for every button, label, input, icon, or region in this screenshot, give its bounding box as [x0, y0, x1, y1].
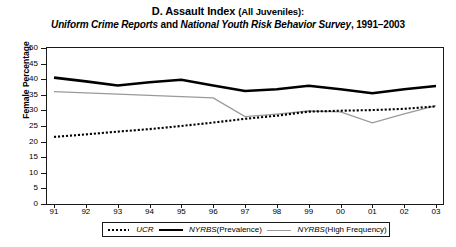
chart-title-source-ucr: Uniform Crime Reports — [51, 19, 158, 30]
y-axis-tick-label: 5 — [14, 184, 38, 192]
chart-title-year-range: , 1991–2003 — [351, 19, 405, 30]
legend-gray-line-icon — [266, 226, 292, 234]
y-axis-tick-label: 0 — [14, 200, 38, 208]
x-axis-tick-label: 02 — [393, 208, 415, 216]
series-line-nyrbs-high-frequency — [54, 92, 436, 123]
series-line-nyrbs-prevalence — [54, 78, 436, 94]
x-axis-tick-label: 00 — [330, 208, 352, 216]
chart-legend: UCRNYRBS (Prevalence)NYRBS (High Frequen… — [102, 222, 390, 237]
legend-item[interactable]: NYRBS (High Frequency) — [265, 225, 387, 234]
legend-thick-line-icon — [158, 226, 184, 234]
chart-title-subject: (All Juveniles): — [238, 6, 304, 17]
x-axis-tick-label: 95 — [170, 208, 192, 216]
y-axis-tick-label: 35 — [14, 91, 38, 99]
y-axis-tick-label: 10 — [14, 169, 38, 177]
y-axis-tick-label: 50 — [14, 44, 38, 52]
x-axis-tick-label: 96 — [202, 208, 224, 216]
legend-item-qualifier: (Prevalence) — [217, 225, 262, 234]
x-axis-tick-label: 03 — [425, 208, 447, 216]
legend-item-label: UCR — [136, 225, 153, 234]
legend-dotted-line-icon — [105, 226, 131, 234]
x-axis-tick-label: 92 — [75, 208, 97, 216]
x-axis-tick-label: 99 — [298, 208, 320, 216]
legend-item-label: NYRBS — [297, 225, 325, 234]
x-axis-tick-label: 01 — [361, 208, 383, 216]
legend-item[interactable]: NYRBS (Prevalence) — [157, 225, 263, 234]
plot-area — [46, 47, 444, 205]
x-axis-tick-label: 93 — [107, 208, 129, 216]
x-axis-tick-label: 91 — [43, 208, 65, 216]
x-axis-tick-label: 94 — [139, 208, 161, 216]
y-axis-tick-label: 40 — [14, 75, 38, 83]
y-axis-tick-label: 30 — [14, 106, 38, 114]
chart-title-line-2: Uniform Crime Reports and National Youth… — [0, 19, 456, 32]
plot-svg — [47, 48, 443, 204]
chart-title-source-nyrbs: National Youth Risk Behavior Survey — [181, 19, 351, 30]
chart-title-lead: D. Assault Index — [152, 5, 236, 17]
chart-title: D. Assault Index (All Juveniles): Unifor… — [0, 4, 456, 32]
x-axis-tick-label: 97 — [234, 208, 256, 216]
legend-item-qualifier: (High Frequency) — [325, 225, 387, 234]
legend-item[interactable]: UCR — [104, 225, 154, 234]
chart-figure: D. Assault Index (All Juveniles): Unifor… — [0, 0, 456, 247]
y-axis-tick-label: 15 — [14, 153, 38, 161]
y-axis-tick-label: 45 — [14, 60, 38, 68]
legend-item-label: NYRBS — [189, 225, 217, 234]
chart-title-conjunction: and — [158, 19, 181, 30]
x-axis-tick-label: 98 — [266, 208, 288, 216]
chart-title-line-1: D. Assault Index (All Juveniles): — [0, 4, 456, 18]
y-axis-tick-label: 25 — [14, 122, 38, 130]
y-axis-tick-label: 20 — [14, 138, 38, 146]
